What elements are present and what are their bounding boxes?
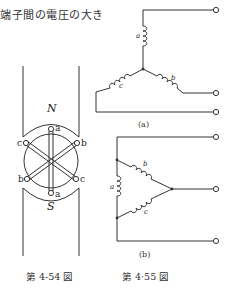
coil-label-b: b — [171, 74, 176, 82]
terminal-a3 — [213, 109, 218, 114]
terminal-b1 — [213, 134, 218, 139]
star-node — [142, 68, 145, 71]
terminal-b2 — [213, 186, 218, 191]
svg-text:b: b — [18, 174, 24, 184]
figure-4-54 — [23, 66, 80, 256]
svg-text:a: a — [55, 123, 61, 133]
figure-4-54-caption: 第 4-54 図 — [26, 269, 73, 283]
delta-coil-label-c: c — [144, 208, 148, 216]
subfig-b-label: (b) — [139, 250, 150, 259]
coil-label-a: a — [136, 32, 140, 40]
delta-coil-label-a: a — [110, 183, 114, 191]
terminal-a-top — [48, 126, 53, 131]
terminal-c-right — [73, 176, 78, 181]
terminal-b-right — [74, 140, 79, 145]
svg-text:a: a — [55, 189, 61, 199]
terminal-b3 — [213, 238, 218, 243]
terminal-c-left — [23, 140, 28, 145]
figure-4-55b-delta — [117, 134, 219, 243]
rotor-circle — [24, 134, 78, 188]
svg-text:c: c — [80, 174, 85, 184]
figure-4-55-caption: 第 4·55 図 — [122, 269, 169, 283]
figure-4-55a-star — [96, 7, 219, 114]
delta-coil-label-b: b — [143, 160, 148, 168]
terminal-a-bottom — [48, 190, 53, 195]
terminal-a1 — [213, 7, 218, 12]
coil-label-c: c — [119, 82, 123, 90]
terminal-b-left — [24, 176, 29, 181]
subfig-a-label: (a) — [138, 120, 149, 129]
svg-text:b: b — [81, 138, 87, 148]
diagram-canvas: a b c b a c a b c b c a N S — [0, 0, 234, 296]
terminal-a2 — [213, 90, 218, 95]
pole-label-n: N — [46, 102, 57, 115]
svg-text:c: c — [17, 138, 22, 148]
pole-label-s: S — [47, 200, 55, 213]
